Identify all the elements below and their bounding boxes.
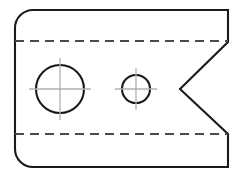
technical-drawing-canvas <box>0 0 244 179</box>
drawing-svg <box>0 0 244 179</box>
